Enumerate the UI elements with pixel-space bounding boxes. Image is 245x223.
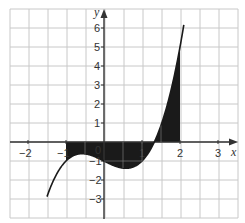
y-tick-label: 2: [94, 98, 100, 110]
function-curve: [47, 25, 184, 197]
y-axis-arrow-icon: [101, 9, 108, 18]
x-tick-label: 3: [215, 147, 221, 159]
x-tick-label: 2: [177, 147, 183, 159]
grid: [10, 9, 238, 218]
x-tick-label: −2: [19, 147, 32, 159]
tick-labels: −2−10123−3−2−1123456xy: [19, 5, 237, 205]
y-tick-label: 5: [94, 41, 100, 53]
y-tick-label: 6: [94, 22, 100, 34]
y-tick-label: 4: [94, 60, 100, 72]
y-axis-label: y: [93, 5, 100, 19]
y-tick-label: −2: [89, 174, 102, 186]
y-tick-label: 1: [94, 117, 100, 129]
chart: −2−10123−3−2−1123456xy: [0, 0, 245, 223]
y-tick-label: −1: [89, 155, 102, 167]
x-axis-label: x: [230, 145, 237, 159]
x-tick-label: −1: [57, 147, 70, 159]
y-tick-label: −3: [89, 193, 102, 205]
y-tick-label: 3: [94, 79, 100, 91]
